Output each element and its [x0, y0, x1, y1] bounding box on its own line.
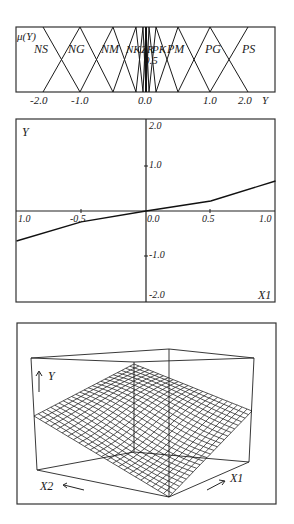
- tick-2: 2.0: [238, 94, 252, 106]
- half-label: 0.5: [144, 54, 158, 66]
- x-tick-neg1: 1.0: [18, 213, 31, 224]
- y-tick-neg1: -1.0: [149, 249, 165, 260]
- surface-mesh: [34, 364, 252, 497]
- x2-axis-label: X2: [39, 479, 53, 493]
- y-axis-label: Y: [48, 369, 56, 383]
- x-tick-neg05: -0.5: [70, 213, 86, 224]
- x-tick-05: 0.5: [202, 213, 215, 224]
- tick-neg1: -1.0: [71, 94, 89, 106]
- set-label-nk: NK: [125, 43, 141, 55]
- y-vs-x1-svg: Y 2.0 1.0 -1.0 -2.0 1.0 -0.5 0.0 0.5 1.0…: [0, 110, 294, 310]
- x-tick-1: 1.0: [259, 213, 272, 224]
- surface-chart: Y X1 X2: [0, 310, 294, 524]
- y-axis-label: Y: [22, 125, 30, 139]
- set-label-pg: PG: [204, 42, 221, 56]
- y-tick-neg2: -2.0: [149, 289, 165, 300]
- x1-arrow-icon: [207, 481, 224, 490]
- surface-svg: Y X1 X2: [0, 310, 294, 524]
- set-label-ng: NG: [67, 42, 85, 56]
- tick-neg2: -2.0: [30, 94, 48, 106]
- tick-0: 0.0: [138, 94, 152, 106]
- x-tick-0: 0.0: [147, 213, 160, 224]
- membership-chart: μ(Y) NS NG NM NK ZR PK PM PG PS 0.5 -2.0…: [0, 0, 294, 110]
- set-label-pm: PM: [166, 42, 185, 56]
- x1-axis-label: X1: [229, 471, 243, 485]
- membership-chart-svg: μ(Y) NS NG NM NK ZR PK PM PG PS 0.5 -2.0…: [0, 0, 294, 110]
- x-axis-label: X1: [257, 288, 271, 302]
- tick-1: 1.0: [203, 94, 217, 106]
- y-tick-1: 1.0: [149, 159, 162, 170]
- set-label-ns: NS: [33, 42, 48, 56]
- axis-label-y: Y: [262, 94, 270, 106]
- y-tick-2: 2.0: [149, 120, 162, 131]
- set-label-ps: PS: [241, 42, 255, 56]
- y-vs-x1-chart: Y 2.0 1.0 -1.0 -2.0 1.0 -0.5 0.0 0.5 1.0…: [0, 110, 294, 310]
- set-label-nm: NM: [100, 42, 120, 56]
